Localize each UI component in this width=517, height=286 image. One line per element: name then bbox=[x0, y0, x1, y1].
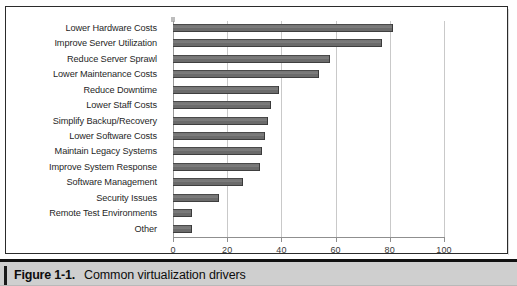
bar bbox=[173, 209, 192, 217]
value-axis-baseline bbox=[173, 237, 445, 238]
figure-number: Figure 1-1. bbox=[14, 268, 75, 282]
bar-row bbox=[173, 222, 444, 237]
category-label: Lower Staff Costs bbox=[86, 100, 157, 110]
bar bbox=[173, 225, 192, 233]
category-label: Reduce Server Sprawl bbox=[67, 54, 157, 64]
bar bbox=[173, 147, 262, 155]
category-label: Remote Test Environments bbox=[49, 208, 157, 218]
bar bbox=[173, 163, 260, 171]
bar-row bbox=[173, 175, 444, 190]
bar bbox=[173, 39, 382, 47]
tick-label-60: 60 bbox=[330, 245, 340, 255]
tick-100 bbox=[444, 237, 445, 242]
bar-row bbox=[173, 36, 444, 51]
bar-row bbox=[173, 52, 444, 67]
category-label: Other bbox=[135, 224, 157, 234]
caption-accent-bar bbox=[4, 266, 7, 285]
bar bbox=[173, 86, 279, 94]
figure-caption-band: Figure 1-1.Common virtualization drivers bbox=[0, 259, 517, 286]
bar bbox=[173, 101, 271, 109]
figure-container: Lower Hardware CostsImprove Server Utili… bbox=[0, 0, 517, 286]
tick-80 bbox=[390, 237, 391, 242]
category-label: Software Management bbox=[66, 177, 157, 187]
bar-row bbox=[173, 191, 444, 206]
tick-label-0: 0 bbox=[170, 245, 175, 255]
plot-area: 020406080100 bbox=[173, 21, 444, 237]
bar bbox=[173, 55, 330, 63]
figure-title: Common virtualization drivers bbox=[84, 268, 246, 282]
bar bbox=[173, 178, 243, 186]
tick-0 bbox=[173, 237, 174, 242]
bar bbox=[173, 194, 219, 202]
category-label: Simplify Backup/Recovery bbox=[53, 116, 157, 126]
bar bbox=[173, 117, 268, 125]
category-label: Maintain Legacy Systems bbox=[55, 146, 157, 156]
bar-row bbox=[173, 114, 444, 129]
bar-row bbox=[173, 206, 444, 221]
bar-row bbox=[173, 98, 444, 113]
tick-label-100: 100 bbox=[436, 245, 452, 255]
gridline-100 bbox=[444, 21, 445, 237]
bar-row bbox=[173, 144, 444, 159]
tick-label-20: 20 bbox=[222, 245, 232, 255]
tick-label-40: 40 bbox=[276, 245, 286, 255]
tick-20 bbox=[227, 237, 228, 242]
category-label: Lower Hardware Costs bbox=[66, 23, 157, 33]
bar-row bbox=[173, 21, 444, 36]
category-label: Security Issues bbox=[96, 193, 157, 203]
figure-caption: Figure 1-1.Common virtualization drivers bbox=[14, 268, 246, 282]
bar-row bbox=[173, 160, 444, 175]
chart-frame: Lower Hardware CostsImprove Server Utili… bbox=[5, 6, 508, 254]
category-label: Lower Maintenance Costs bbox=[53, 69, 157, 79]
bar-row bbox=[173, 83, 444, 98]
bar bbox=[173, 132, 265, 140]
tick-40 bbox=[281, 237, 282, 242]
category-label: Lower Software Costs bbox=[69, 131, 157, 141]
tick-label-80: 80 bbox=[385, 245, 395, 255]
category-label: Improve System Response bbox=[49, 162, 157, 172]
category-label: Reduce Downtime bbox=[83, 85, 157, 95]
tick-60 bbox=[336, 237, 337, 242]
bar bbox=[173, 24, 393, 32]
bar bbox=[173, 70, 319, 78]
bar-row bbox=[173, 129, 444, 144]
bar-row bbox=[173, 67, 444, 82]
category-label: Improve Server Utilization bbox=[54, 38, 157, 48]
